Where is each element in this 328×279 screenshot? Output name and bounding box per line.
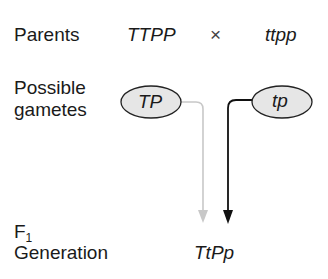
gametes-label-line2: gametes [14,100,87,119]
tp-recessive-arrow [228,100,252,212]
f1-label-line2: Generation [14,243,108,262]
parent2-genotype: ttpp [265,25,297,44]
gamete1-text: TP [138,92,162,111]
f1-label: F1 [14,222,32,244]
f1-label-main: F [14,221,26,242]
tp-dominant-arrow [180,102,203,212]
cross-symbol: × [210,25,221,44]
parents-label: Parents [14,25,79,44]
gametes-label-line1: Possible [14,78,86,97]
parent1-genotype: TTPP [127,25,176,44]
offspring-genotype: TtPp [194,243,234,262]
gamete2-text: tp [272,91,288,110]
arrowhead-dark-icon [223,210,233,224]
arrowhead-light-icon [198,210,208,223]
